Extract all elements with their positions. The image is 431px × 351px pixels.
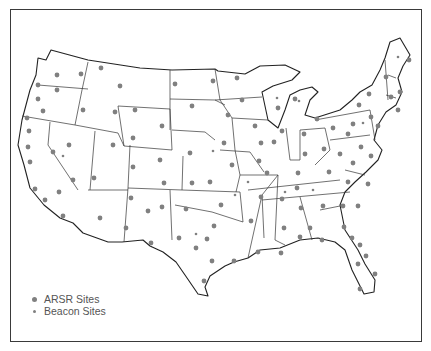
arsr-site-marker — [210, 259, 215, 264]
arsr-site-marker — [259, 141, 264, 146]
arsr-site-marker — [272, 140, 277, 145]
arsr-site-marker — [219, 203, 224, 208]
arsr-sites — [25, 58, 412, 292]
arsr-site-marker — [99, 66, 104, 71]
arsr-site-marker — [321, 204, 326, 209]
arsr-site-marker — [205, 237, 210, 242]
beacon-site-marker — [212, 150, 215, 153]
arsr-site-marker — [129, 196, 134, 201]
arsr-site-marker — [356, 262, 361, 267]
arsr-site-marker — [212, 224, 217, 229]
legend: ARSR Sites Beacon Sites — [30, 293, 106, 317]
arsr-site-marker — [149, 241, 154, 246]
arsr-site-marker — [28, 160, 33, 165]
arsr-site-marker — [124, 226, 129, 231]
arsr-site-marker — [359, 145, 364, 150]
arsr-site-marker — [57, 190, 62, 195]
beacon-site-marker — [276, 97, 279, 100]
arsr-site-marker — [240, 98, 245, 103]
arsr-site-marker — [202, 279, 207, 284]
arsr-site-marker — [265, 171, 270, 176]
arsr-site-marker — [55, 73, 60, 78]
arsr-site-marker — [25, 116, 30, 121]
arsr-site-marker — [351, 122, 356, 127]
arsr-site-marker — [279, 251, 284, 256]
arsr-site-marker — [384, 75, 389, 80]
arsr-site-marker — [299, 206, 304, 211]
arsr-site-marker — [81, 108, 86, 113]
arsr-site-marker — [79, 72, 84, 77]
arsr-site-marker — [369, 154, 374, 159]
arsr-site-marker — [43, 198, 48, 203]
arsr-site-marker — [27, 129, 32, 134]
arsr-site-marker — [113, 110, 118, 115]
arsr-site-marker — [366, 182, 371, 187]
arsr-dot-icon — [32, 297, 37, 302]
legend-label-beacon: Beacon Sites — [44, 305, 106, 317]
arsr-site-marker — [71, 178, 76, 183]
arsr-site-marker — [235, 76, 240, 81]
arsr-site-marker — [173, 82, 178, 87]
arsr-site-marker — [407, 58, 412, 63]
legend-label-arsr: ARSR Sites — [44, 293, 99, 305]
arsr-site-marker — [367, 92, 372, 97]
legend-item-arsr: ARSR Sites — [30, 293, 106, 305]
arsr-site-marker — [211, 79, 216, 84]
arsr-site-marker — [146, 209, 151, 214]
beacon-site-marker — [247, 181, 250, 184]
arsr-site-marker — [296, 171, 301, 176]
arsr-site-marker — [177, 236, 182, 241]
arsr-site-marker — [280, 197, 285, 202]
arsr-site-marker — [92, 176, 97, 181]
arsr-site-marker — [111, 143, 116, 148]
arsr-site-marker — [276, 106, 281, 111]
arsr-site-marker — [346, 132, 351, 137]
arsr-site-marker — [298, 235, 303, 240]
arsr-site-marker — [341, 204, 346, 209]
arsr-site-marker — [118, 84, 123, 89]
arsr-site-marker — [98, 216, 103, 221]
beacon-site-marker — [397, 56, 400, 59]
arsr-site-marker — [398, 90, 403, 95]
arsr-site-marker — [389, 95, 394, 100]
arsr-site-marker — [373, 272, 378, 277]
arsr-site-marker — [308, 226, 313, 231]
arsr-site-marker — [322, 147, 327, 152]
arsr-site-marker — [257, 159, 262, 164]
arsr-site-marker — [356, 204, 361, 209]
arsr-site-marker — [190, 181, 195, 186]
arsr-site-marker — [282, 226, 287, 231]
arsr-site-marker — [55, 88, 60, 93]
beacon-site-marker — [62, 155, 65, 158]
arsr-site-marker — [160, 205, 165, 210]
arsr-site-marker — [133, 108, 138, 113]
beacon-site-marker — [195, 233, 198, 236]
arsr-site-marker — [61, 214, 66, 219]
arsr-site-marker — [357, 103, 362, 108]
arsr-site-marker — [230, 163, 235, 168]
arsr-site-marker — [226, 113, 231, 118]
arsr-site-marker — [376, 124, 381, 129]
beacon-site-marker — [284, 191, 287, 194]
arsr-site-marker — [358, 243, 363, 248]
beacon-dot-icon — [33, 310, 36, 313]
arsr-site-marker — [194, 246, 199, 251]
arsr-site-marker — [256, 250, 261, 255]
arsr-site-marker — [184, 207, 189, 212]
arsr-site-marker — [396, 108, 401, 113]
arsr-site-marker — [41, 109, 46, 114]
arsr-site-marker — [302, 132, 307, 137]
arsr-site-marker — [188, 151, 193, 156]
arsr-site-marker — [369, 115, 374, 120]
arsr-site-marker — [280, 129, 285, 134]
arsr-site-marker — [190, 104, 195, 109]
arsr-site-marker — [67, 143, 72, 148]
arsr-site-marker — [342, 225, 347, 230]
arsr-site-marker — [293, 97, 298, 102]
arsr-site-marker — [253, 124, 258, 129]
arsr-site-marker — [160, 124, 165, 129]
beacon-site-marker — [312, 189, 315, 192]
arsr-site-marker — [51, 150, 56, 155]
arsr-site-marker — [33, 187, 38, 192]
arsr-site-marker — [249, 219, 254, 224]
